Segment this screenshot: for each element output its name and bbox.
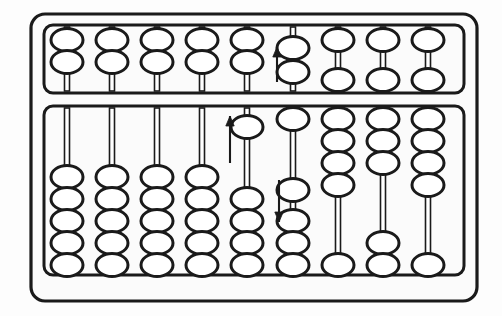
bead-lower-r5-4[interactable] bbox=[231, 232, 263, 255]
bead-lower-r5-3[interactable] bbox=[231, 210, 263, 233]
bead-upper-r7-2[interactable] bbox=[322, 69, 354, 92]
bead-lower-r7-4[interactable] bbox=[322, 174, 354, 197]
bead-lower-r2-2[interactable] bbox=[96, 188, 128, 211]
abacus-canvas bbox=[0, 0, 502, 316]
bead-upper-r9-2[interactable] bbox=[412, 69, 444, 92]
bead-upper-r4-2[interactable] bbox=[186, 51, 218, 74]
bead-lower-r4-3[interactable] bbox=[186, 210, 218, 233]
bead-lower-r2-4[interactable] bbox=[96, 232, 128, 255]
bead-lower-r2-3[interactable] bbox=[96, 210, 128, 233]
bead-upper-r8-2[interactable] bbox=[367, 69, 399, 92]
bead-lower-r1-4[interactable] bbox=[51, 232, 83, 255]
abacus-illustration bbox=[0, 0, 502, 316]
bead-lower-r2-5[interactable] bbox=[96, 254, 128, 277]
bead-lower-r5-2[interactable] bbox=[231, 188, 263, 211]
bead-upper-r6-1[interactable] bbox=[277, 37, 309, 60]
bead-lower-r3-5[interactable] bbox=[141, 254, 173, 277]
bead-lower-r7-3[interactable] bbox=[322, 152, 354, 175]
bead-lower-r3-3[interactable] bbox=[141, 210, 173, 233]
bead-lower-r1-5[interactable] bbox=[51, 254, 83, 277]
bead-lower-r4-2[interactable] bbox=[186, 188, 218, 211]
bead-lower-r1-3[interactable] bbox=[51, 210, 83, 233]
bead-upper-r5-1[interactable] bbox=[231, 29, 263, 52]
bead-upper-r2-2[interactable] bbox=[96, 51, 128, 74]
bead-lower-r5-1[interactable] bbox=[231, 116, 263, 139]
bead-lower-r8-1[interactable] bbox=[367, 108, 399, 131]
bead-upper-r1-2[interactable] bbox=[51, 51, 83, 74]
bead-lower-r7-2[interactable] bbox=[322, 130, 354, 153]
bead-upper-r1-1[interactable] bbox=[51, 29, 83, 52]
bead-upper-r9-1[interactable] bbox=[412, 29, 444, 52]
bead-upper-r3-1[interactable] bbox=[141, 29, 173, 52]
bead-lower-r7-5[interactable] bbox=[322, 254, 354, 277]
bead-lower-r4-4[interactable] bbox=[186, 232, 218, 255]
bead-lower-r6-1[interactable] bbox=[277, 108, 309, 131]
bead-lower-r8-3[interactable] bbox=[367, 152, 399, 175]
bead-lower-r6-2[interactable] bbox=[277, 179, 309, 202]
bead-lower-r1-1[interactable] bbox=[51, 166, 83, 189]
bead-lower-r9-3[interactable] bbox=[412, 152, 444, 175]
bead-upper-r3-2[interactable] bbox=[141, 51, 173, 74]
bead-lower-r8-5[interactable] bbox=[367, 254, 399, 277]
bead-upper-r2-1[interactable] bbox=[96, 29, 128, 52]
bead-lower-r6-5[interactable] bbox=[277, 254, 309, 277]
bead-lower-r9-4[interactable] bbox=[412, 174, 444, 197]
bead-upper-r5-2[interactable] bbox=[231, 51, 263, 74]
bead-upper-r6-2[interactable] bbox=[277, 61, 309, 84]
bead-lower-r2-1[interactable] bbox=[96, 166, 128, 189]
bead-lower-r8-2[interactable] bbox=[367, 130, 399, 153]
bead-upper-r7-1[interactable] bbox=[322, 29, 354, 52]
bead-lower-r9-1[interactable] bbox=[412, 108, 444, 131]
bead-lower-r8-4[interactable] bbox=[367, 232, 399, 255]
bead-lower-r7-1[interactable] bbox=[322, 108, 354, 131]
bead-lower-r4-5[interactable] bbox=[186, 254, 218, 277]
bead-upper-r4-1[interactable] bbox=[186, 29, 218, 52]
bead-lower-r3-4[interactable] bbox=[141, 232, 173, 255]
bead-lower-r3-2[interactable] bbox=[141, 188, 173, 211]
bead-lower-r1-2[interactable] bbox=[51, 188, 83, 211]
bead-lower-r9-5[interactable] bbox=[412, 254, 444, 277]
bead-lower-r5-5[interactable] bbox=[231, 254, 263, 277]
bead-lower-r6-4[interactable] bbox=[277, 232, 309, 255]
bead-lower-r3-1[interactable] bbox=[141, 166, 173, 189]
bead-upper-r8-1[interactable] bbox=[367, 29, 399, 52]
bead-lower-r4-1[interactable] bbox=[186, 166, 218, 189]
bead-lower-r9-2[interactable] bbox=[412, 130, 444, 153]
